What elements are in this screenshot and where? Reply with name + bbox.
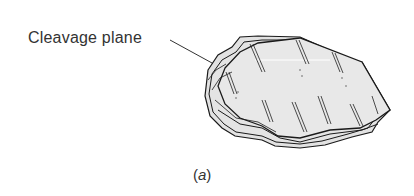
caption-close: )	[206, 166, 211, 183]
figure-caption: (a)	[193, 166, 211, 183]
